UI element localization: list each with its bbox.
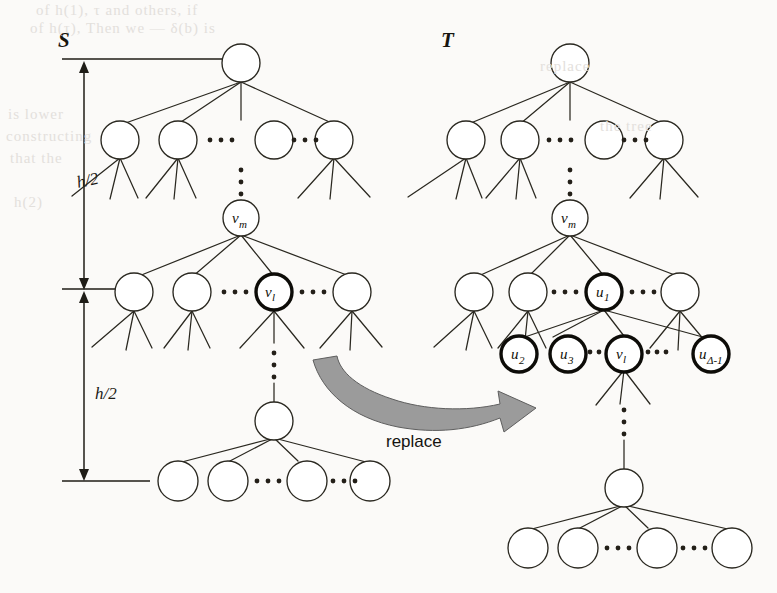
t-node-u1-sub: 1 — [604, 291, 610, 303]
bleed-text-3: constructing — [6, 128, 92, 145]
s-level3-node-1 — [115, 273, 153, 311]
bleed-text-0: of h(1), τ and others, if — [36, 2, 198, 19]
height-label-upper: h/2 — [75, 169, 101, 192]
t-level1-ellipsis-left — [547, 138, 574, 143]
s-leaf-ellipsis-left — [255, 479, 282, 484]
s-level3-ellipsis-left — [222, 290, 249, 295]
t-node-vl-sub: l — [623, 353, 626, 365]
tree-t-edges-level1-stubs — [408, 158, 698, 199]
t-level3-node-2 — [509, 273, 547, 311]
t-leaf-ellipsis-left — [605, 546, 632, 551]
bleed-text-2: is lower — [8, 106, 64, 123]
tree-t-vertical-ellipsis-bottom — [622, 408, 627, 470]
tree-s-edges-root — [120, 82, 334, 125]
t-level3-node-1 — [455, 273, 493, 311]
s-level1-node-3 — [255, 121, 293, 159]
t-subtree-root-node — [605, 469, 643, 507]
s-leaf-node-2 — [208, 461, 248, 501]
t-level1-ellipsis-right — [622, 138, 649, 143]
t-node-u3-sub: 3 — [567, 354, 574, 366]
dimension-annotations — [62, 59, 230, 481]
tree-s: v m v l — [72, 44, 390, 501]
t-node-u2-sub: 2 — [519, 354, 525, 366]
t-node-udelta-label: u — [699, 346, 707, 362]
bleed-text-6: replace — [540, 58, 590, 75]
s-level1-node-2 — [159, 121, 197, 159]
s-node-vm-sub: m — [239, 218, 247, 230]
bleed-text-1: of h(τ), Then we — δ(b) is — [30, 20, 216, 37]
s-node-vl-label: v — [265, 284, 272, 300]
t-node-vm-sub: m — [568, 218, 576, 230]
s-leaf-ellipsis-right — [331, 479, 358, 484]
replace-arrow — [313, 356, 536, 432]
bleed-text-5: h(2) — [14, 194, 43, 211]
t-leaf-node-2 — [558, 528, 598, 568]
s-level3-node-4 — [333, 273, 371, 311]
s-leaf-node-3 — [287, 461, 327, 501]
tree-s-edges-vm — [134, 235, 352, 278]
s-level3-node-2 — [173, 273, 211, 311]
s-node-vl-sub: l — [272, 291, 275, 303]
s-level3-ellipsis-right — [300, 290, 327, 295]
t-leaf-node-1 — [508, 528, 548, 568]
t-node-u2-label: u — [511, 346, 519, 362]
s-node-vm-label: v — [232, 210, 239, 226]
figure-canvas: S T h/2 h/2 — [0, 0, 777, 593]
t-node-u1-label: u — [596, 284, 604, 300]
tree-t-edges-vl-stubs — [596, 370, 650, 405]
tree-s-edges-level1-stubs — [72, 158, 370, 199]
tree-t-vertical-ellipsis-top — [568, 168, 573, 203]
tree-t-edges-bottom — [528, 505, 732, 530]
t-level4-ellipsis-left — [588, 350, 602, 355]
tree-t-edges-vm — [474, 235, 680, 278]
t-node-vl-label: v — [616, 346, 623, 362]
t-level1-node-2 — [501, 121, 539, 159]
t-leaf-node-4 — [712, 528, 752, 568]
tree-t: v m u 1 u 2 u 3 — [408, 44, 752, 568]
tree-diagram-svg: S T h/2 h/2 — [0, 0, 777, 593]
s-level1-ellipsis-right — [292, 138, 319, 143]
tree-s-edges-bottom — [178, 438, 366, 463]
t-node-u3-label: u — [560, 346, 568, 362]
t-node-udelta-sub: Δ-1 — [706, 354, 723, 366]
bleed-text-4: that the — [10, 150, 63, 167]
tree-t-edges-u1 — [519, 310, 710, 339]
s-root-node — [222, 44, 260, 82]
tree-s-vertical-ellipsis-top — [239, 168, 244, 203]
height-label-lower: h/2 — [95, 384, 117, 403]
tree-s-edges-level3-stubs — [92, 311, 382, 350]
tree-label-t: T — [441, 28, 455, 52]
s-subtree-root-node — [255, 402, 293, 440]
t-leaf-ellipsis-right — [681, 546, 708, 551]
t-leaf-node-3 — [637, 528, 677, 568]
s-leaf-node-1 — [158, 461, 198, 501]
tree-s-vertical-ellipsis-bottom — [272, 351, 277, 404]
s-level1-node-1 — [101, 121, 139, 159]
t-level3-ellipsis-left — [552, 290, 579, 295]
t-level3-ellipsis-right — [630, 290, 657, 295]
s-level1-node-4 — [315, 121, 353, 159]
t-level3-node-4 — [661, 273, 699, 311]
dimension-lower — [79, 291, 89, 481]
bleed-text-7: the tree — [600, 118, 653, 135]
t-level1-node-1 — [447, 121, 485, 159]
s-level1-ellipsis-left — [208, 138, 235, 143]
t-level4-ellipsis-right — [646, 350, 669, 355]
t-node-vm-label: v — [561, 210, 568, 226]
replace-arrow-label: replace — [386, 432, 442, 451]
